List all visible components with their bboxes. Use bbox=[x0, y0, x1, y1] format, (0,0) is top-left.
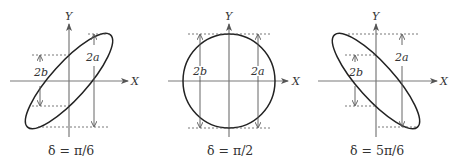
minor-axis-label: 2b bbox=[348, 66, 363, 79]
major-axis-label: 2a bbox=[394, 51, 409, 64]
minor-axis-label: 2b bbox=[33, 66, 48, 79]
panel-caption: δ = π/2 bbox=[207, 143, 253, 158]
major-axis-label: 2a bbox=[250, 65, 265, 78]
x-axis-label: X bbox=[130, 75, 140, 88]
panel-5pi-6: X Y 2a 2b δ = 5π/6 bbox=[318, 10, 449, 158]
minor-axis-label: 2b bbox=[192, 65, 207, 78]
y-axis-label: Y bbox=[225, 10, 234, 23]
y-axis-label: Y bbox=[65, 10, 74, 23]
panel-caption: δ = π/6 bbox=[48, 143, 94, 158]
panel-pi-2: X Y 2b 2a δ = π/2 bbox=[168, 10, 301, 158]
major-axis-label: 2a bbox=[85, 51, 100, 64]
lissajous-figure: X Y 2a 2b δ = π/6 X Y 2b 2a δ = π/2 bbox=[0, 0, 455, 164]
panel-caption: δ = 5π/6 bbox=[350, 143, 404, 158]
y-axis-label: Y bbox=[372, 10, 381, 23]
panel-pi-6: X Y 2a 2b δ = π/6 bbox=[10, 10, 140, 158]
x-axis-label: X bbox=[439, 75, 449, 88]
x-axis-label: X bbox=[291, 75, 301, 88]
